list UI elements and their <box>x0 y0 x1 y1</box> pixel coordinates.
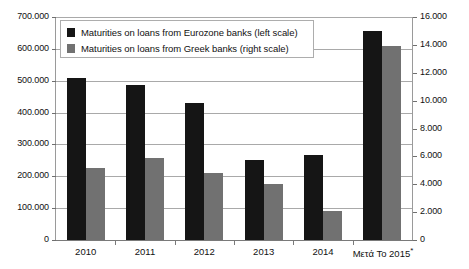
bar-greek <box>86 168 105 240</box>
legend: Maturities on loans from Eurozone banks … <box>60 20 314 58</box>
bar-eurozone <box>126 85 145 240</box>
left-tick-mark <box>52 176 56 177</box>
right-tick-mark <box>413 212 417 213</box>
right-tick-label: 16.000 <box>420 11 468 21</box>
bar-eurozone <box>304 155 323 240</box>
left-tick-label: 200.000 <box>1 170 49 180</box>
right-tick-mark <box>413 129 417 130</box>
bar-eurozone <box>363 31 382 240</box>
left-tick-mark <box>52 113 56 114</box>
x-axis-category-label: 2011 <box>115 246 174 257</box>
right-tick-mark <box>413 156 417 157</box>
left-tick-label: 700.000 <box>1 11 49 21</box>
gridline <box>56 81 412 82</box>
right-tick-label: 0 <box>420 234 468 244</box>
left-tick-mark <box>52 240 56 241</box>
x-tick-mark <box>115 240 116 245</box>
left-tick-mark <box>52 208 56 209</box>
right-tick-label: 2.000 <box>420 206 468 216</box>
bar-greek <box>145 158 164 240</box>
left-tick-label: 500.000 <box>1 75 49 85</box>
bar-eurozone <box>67 78 86 240</box>
bar-greek <box>264 184 283 240</box>
left-tick-mark <box>52 17 56 18</box>
right-tick-mark <box>413 17 417 18</box>
x-axis-category-label: 2012 <box>175 246 234 257</box>
left-tick-label: 400.000 <box>1 107 49 117</box>
right-tick-mark <box>413 101 417 102</box>
bar-eurozone <box>185 103 204 240</box>
left-tick-label: 300.000 <box>1 138 49 148</box>
x-axis-category-label: 2014 <box>293 246 352 257</box>
legend-swatch-greek <box>67 44 75 53</box>
legend-item-greek: Maturities on loans from Greek banks (ri… <box>67 41 307 56</box>
x-tick-mark <box>234 240 235 245</box>
right-tick-label: 4.000 <box>420 178 468 188</box>
x-tick-mark <box>175 240 176 245</box>
left-tick-mark <box>52 144 56 145</box>
bar-chart: 0100.000200.000300.000400.000500.000600.… <box>0 0 469 269</box>
gridline <box>56 144 412 145</box>
x-axis-category-label: Μετά Το 2015* <box>353 246 412 259</box>
gridline <box>56 17 412 18</box>
right-tick-mark <box>413 184 417 185</box>
right-tick-label: 6.000 <box>420 150 468 160</box>
right-tick-label: 14.000 <box>420 39 468 49</box>
legend-label-eurozone: Maturities on loans from Eurozone banks … <box>81 27 298 38</box>
bar-greek <box>204 173 223 240</box>
gridline <box>56 113 412 114</box>
bar-eurozone <box>245 160 264 240</box>
bar-greek <box>382 46 401 240</box>
right-tick-label: 10.000 <box>420 95 468 105</box>
left-tick-label: 0 <box>1 234 49 244</box>
x-tick-mark <box>293 240 294 245</box>
x-tick-mark <box>353 240 354 245</box>
legend-label-greek: Maturities on loans from Greek banks (ri… <box>81 43 289 54</box>
left-tick-label: 600.000 <box>1 43 49 53</box>
x-axis-category-label: 2010 <box>56 246 115 257</box>
x-axis-category-label: 2013 <box>234 246 293 257</box>
legend-item-eurozone: Maturities on loans from Eurozone banks … <box>67 25 307 40</box>
right-tick-label: 12.000 <box>420 67 468 77</box>
bar-greek <box>323 211 342 240</box>
left-tick-mark <box>52 49 56 50</box>
gridline <box>56 208 412 209</box>
left-tick-label: 100.000 <box>1 202 49 212</box>
right-tick-mark <box>413 240 417 241</box>
right-tick-mark <box>413 73 417 74</box>
left-tick-mark <box>52 81 56 82</box>
gridline <box>56 176 412 177</box>
legend-swatch-eurozone <box>67 28 75 37</box>
right-tick-mark <box>413 45 417 46</box>
right-tick-label: 8.000 <box>420 123 468 133</box>
